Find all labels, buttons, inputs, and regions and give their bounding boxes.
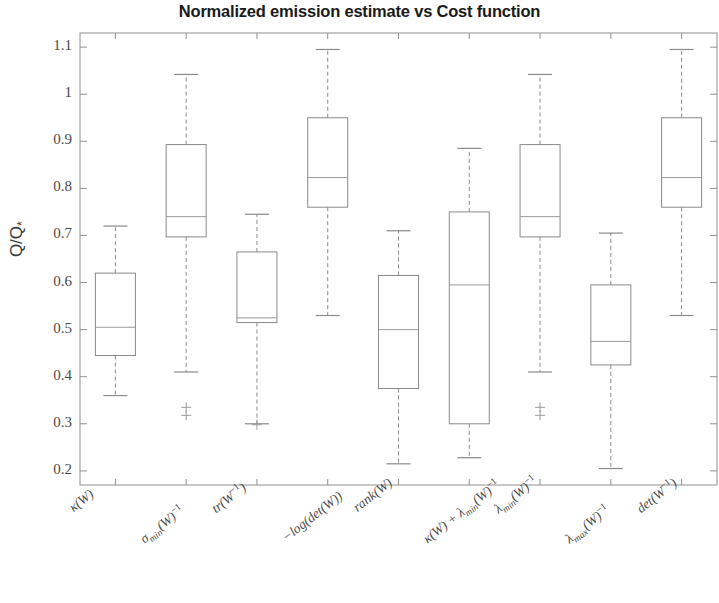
y-tick-label: 0.3 [28, 414, 72, 431]
box [237, 252, 277, 323]
y-tick-label: 0.5 [28, 320, 72, 337]
box [449, 212, 489, 424]
y-tick-label: 0.7 [28, 225, 72, 242]
box [379, 275, 419, 388]
box [662, 118, 702, 207]
y-tick-label: 0.4 [28, 367, 72, 384]
box [520, 145, 560, 237]
box [308, 118, 348, 207]
box [591, 285, 631, 365]
box [95, 273, 135, 355]
y-tick-label: 0.8 [28, 178, 72, 195]
y-tick-label: 0.9 [28, 131, 72, 148]
y-tick-label: 1 [28, 84, 72, 101]
box [166, 145, 206, 237]
y-tick-label: 1.1 [28, 37, 72, 54]
chart-figure: Normalized emission estimate vs Cost fun… [0, 0, 719, 603]
y-tick-label: 0.2 [28, 461, 72, 478]
y-tick-label: 0.6 [28, 273, 72, 290]
